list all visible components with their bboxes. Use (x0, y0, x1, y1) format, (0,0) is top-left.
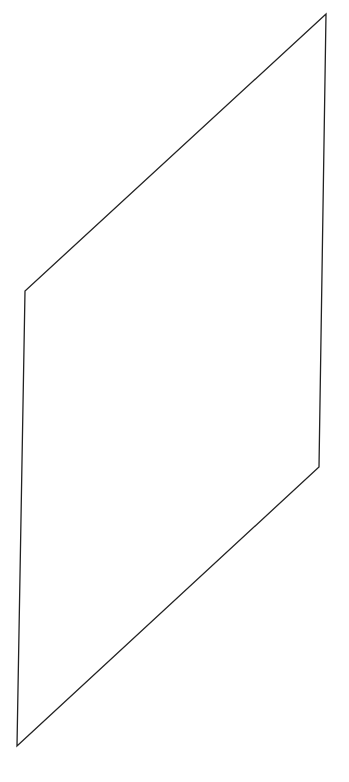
parallelogram-shape (17, 14, 326, 746)
diagram-canvas (0, 0, 349, 782)
